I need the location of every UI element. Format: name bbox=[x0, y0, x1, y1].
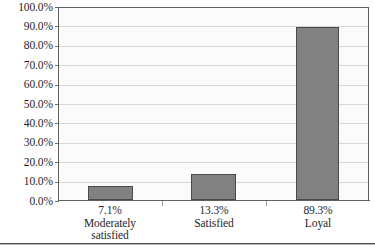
y-tick-label: 30.0% bbox=[0, 137, 53, 149]
y-tick-label: 60.0% bbox=[0, 79, 53, 91]
bar-loyal bbox=[296, 27, 339, 200]
x-category-value: 7.1% bbox=[58, 204, 162, 217]
y-tick-label: 80.0% bbox=[0, 40, 53, 52]
x-category-label-line1: Satisfied bbox=[162, 217, 266, 230]
y-tick-label: 90.0% bbox=[0, 21, 53, 33]
x-axis: 7.1% Moderately satisfied 13.3% Satisfie… bbox=[58, 204, 370, 246]
x-axis-line bbox=[58, 200, 370, 201]
x-category-loyal: 89.3% Loyal bbox=[266, 204, 370, 229]
x-category-label-line1: Moderately bbox=[58, 217, 162, 230]
bar-chart: 100.0% 90.0% 80.0% 70.0% 60.0% 50.0% 40.… bbox=[0, 0, 375, 251]
y-axis: 100.0% 90.0% 80.0% 70.0% 60.0% 50.0% 40.… bbox=[0, 0, 56, 210]
x-category-moderately-satisfied: 7.1% Moderately satisfied bbox=[58, 204, 162, 242]
x-category-value: 13.3% bbox=[162, 204, 266, 217]
bar-satisfied bbox=[191, 174, 236, 200]
y-tick-label: 100.0% bbox=[0, 2, 53, 14]
y-tick-label: 50.0% bbox=[0, 99, 53, 111]
footer-divider-shadow bbox=[0, 244, 375, 245]
y-tick-label: 40.0% bbox=[0, 118, 53, 130]
y-tick-label: 0.0% bbox=[0, 196, 53, 208]
x-category-label-line2: satisfied bbox=[58, 229, 162, 242]
y-tick-label: 10.0% bbox=[0, 176, 53, 188]
x-category-value: 89.3% bbox=[266, 204, 370, 217]
x-category-satisfied: 13.3% Satisfied bbox=[162, 204, 266, 229]
bar-moderately-satisfied bbox=[88, 186, 133, 200]
x-category-label-line1: Loyal bbox=[266, 217, 370, 230]
plot-area bbox=[58, 7, 369, 201]
y-tick-label: 20.0% bbox=[0, 157, 53, 169]
y-tick-label: 70.0% bbox=[0, 60, 53, 72]
y-tick-mark bbox=[55, 201, 59, 202]
